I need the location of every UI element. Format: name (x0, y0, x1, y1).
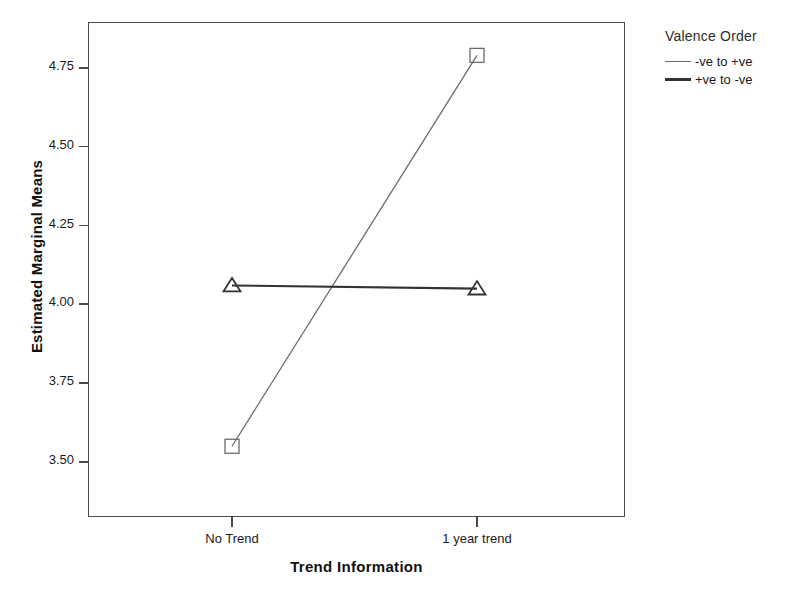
y-axis-tick-label: 3.50 (49, 452, 74, 467)
x-axis-tick-mark (476, 517, 478, 527)
legend-entry: +ve to -ve (665, 72, 790, 87)
y-axis-tick-mark (79, 303, 88, 305)
y-axis-tick-mark (79, 461, 88, 463)
legend-entry-label: -ve to +ve (695, 54, 752, 69)
x-axis-tick-mark (231, 517, 233, 527)
plot-area-frame (88, 22, 625, 517)
y-axis-tick-label: 4.50 (49, 137, 74, 152)
legend-entry-list: -ve to +ve+ve to -ve (665, 54, 790, 87)
legend-line-swatch (665, 61, 691, 63)
y-axis-tick-mark (79, 382, 88, 384)
legend-line-swatch (665, 78, 691, 80)
x-axis-tick-label: No Trend (142, 531, 322, 546)
legend-entry-label: +ve to -ve (695, 72, 752, 87)
y-axis-tick-mark (79, 225, 88, 227)
x-axis-tick-label: 1 year trend (387, 531, 567, 546)
y-axis-tick-label: 3.75 (49, 373, 74, 388)
y-axis-tick-label: 4.25 (49, 216, 74, 231)
x-axis-title: Trend Information (88, 558, 625, 575)
y-axis-tick-label: 4.00 (49, 294, 74, 309)
legend-entry: -ve to +ve (665, 54, 790, 69)
legend-title: Valence Order (665, 28, 790, 44)
y-axis-title: Estimated Marginal Means (28, 117, 45, 397)
y-axis-tick-label: 4.75 (49, 58, 74, 73)
legend: Valence Order -ve to +ve+ve to -ve (665, 28, 790, 90)
y-axis-tick-mark (79, 146, 88, 148)
profile-plot-chart: Estimated Marginal Means Trend Informati… (0, 0, 793, 595)
y-axis-tick-mark (79, 67, 88, 69)
